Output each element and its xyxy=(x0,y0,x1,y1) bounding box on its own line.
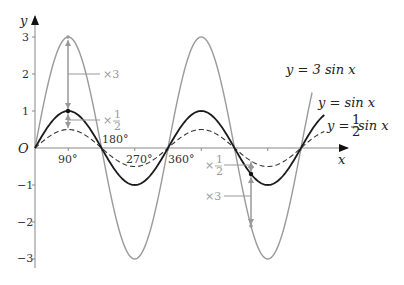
y-tick-label-neg1: −1 xyxy=(17,179,33,192)
y-tick-label-2: 2 xyxy=(22,68,29,81)
annotation-half-den-upper: 2 xyxy=(114,120,121,133)
legend-3sinx: y = 3 sin x xyxy=(285,62,356,77)
annotation-times3-lower: ×3 xyxy=(205,190,221,203)
y-axis-label: y xyxy=(19,13,28,28)
point-sin-585 xyxy=(249,172,253,176)
point-3sin-585 xyxy=(249,224,253,228)
point-3sin-90 xyxy=(66,35,70,39)
legend-sinx: y = sin x xyxy=(317,95,376,110)
annotation-lower: ×3 × 1 2 xyxy=(205,153,253,228)
point-sin-90 xyxy=(66,109,70,113)
x-tick-label-90: 90° xyxy=(58,153,78,166)
y-tick-label-3: 3 xyxy=(22,31,29,44)
annotation-times-lower: × xyxy=(205,159,214,172)
x-tick-label-360: 360° xyxy=(168,153,195,166)
y-tick-label-neg3: −3 xyxy=(17,252,33,265)
legend-half-sinx: y = 1 2 sin x xyxy=(326,112,389,139)
x-axis-label: x xyxy=(338,152,346,167)
y-tick-label-neg2: −2 xyxy=(17,216,33,229)
svg-text:sin x: sin x xyxy=(358,118,389,133)
y-tick-label-1: 1 xyxy=(22,105,29,118)
annotation-half-den-lower: 2 xyxy=(216,165,223,178)
annotation-upper: ×3 × 1 2 xyxy=(66,35,121,133)
annotation-times-upper: × xyxy=(103,114,112,127)
origin-label: O xyxy=(18,141,29,156)
x-tick-label-270: 270° xyxy=(126,153,153,166)
annotation-times3-upper: ×3 xyxy=(103,68,119,81)
sine-graph: ×3 × 1 2 ×3 × 1 2 y x O 90° 180° 270° 36… xyxy=(0,0,404,285)
x-tick-label-180: 180° xyxy=(102,133,129,146)
svg-text:y =: y = xyxy=(326,118,349,133)
